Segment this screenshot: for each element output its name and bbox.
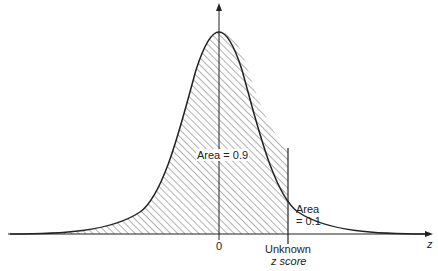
- y-axis-arrow-icon: [216, 3, 222, 11]
- right-area-label-line2: = 0.1: [295, 215, 322, 227]
- z-axis-label: z: [426, 238, 434, 250]
- left-area-label: Area = 0.9: [196, 149, 249, 161]
- cutoff-label-line2: z score: [270, 255, 307, 267]
- normal-curve-figure: [0, 0, 438, 271]
- cutoff-label-line1: Unknown: [264, 243, 312, 255]
- right-area-label-line1: Area: [295, 203, 320, 215]
- origin-label: 0: [215, 240, 223, 252]
